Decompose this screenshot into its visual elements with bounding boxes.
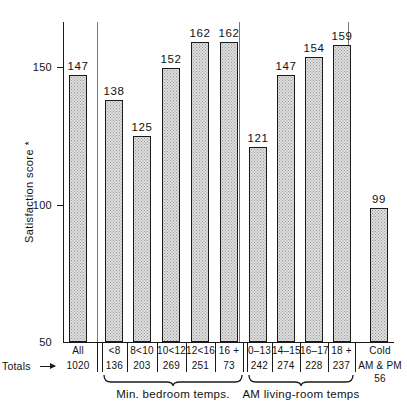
brace-living-room — [247, 374, 355, 386]
bar-value-liv-0-13: 121 — [240, 132, 276, 144]
xlabel-bed-lt8: <8 — [102, 345, 127, 356]
y-tick-label-50: 50 — [18, 336, 52, 348]
xlabel-cold-line2: AM & PM — [355, 360, 405, 371]
xtotal-cold: 56 — [355, 373, 405, 384]
xcell-separator-7 — [243, 343, 244, 372]
bar-value-bed-lt8: 138 — [96, 85, 132, 97]
xtotal-bed-lt8: 136 — [102, 360, 127, 371]
bar-liv-18p[interactable] — [333, 45, 351, 342]
section-separator-2 — [239, 22, 240, 342]
bar-value-bed-16p: 162 — [211, 27, 247, 39]
group-label-bedroom: Min. bedroom temps. — [102, 388, 244, 400]
xlabel-liv-18p: 18 + — [328, 345, 355, 356]
xtotal-liv-18p: 237 — [328, 360, 355, 371]
xtotal-bed-12-16: 251 — [186, 360, 215, 371]
xlabel-bed-12-16: 12<16 — [186, 345, 215, 356]
xtotal-liv-0-13: 242 — [247, 360, 272, 371]
bar-liv-0-13[interactable] — [249, 147, 267, 342]
xtotal-liv-14-15: 274 — [272, 360, 300, 371]
bar-liv-14-15[interactable] — [277, 75, 295, 342]
bar-liv-16-17[interactable] — [305, 57, 323, 342]
brace-bedroom — [102, 374, 244, 386]
xlabel-cold: Cold — [355, 345, 405, 356]
xlabel-liv-16-17: 16–17 — [300, 345, 328, 356]
y-axis-title: Satisfaction score * — [23, 87, 35, 297]
xtotal-bed-8-10: 203 — [127, 360, 157, 371]
xcell-separator-1 — [97, 343, 98, 372]
xlabel-liv-0-13: 0–13 — [247, 345, 272, 356]
totals-row-label: Totals — [2, 360, 31, 372]
xlabel-bed-16p: 16 + — [215, 345, 243, 356]
bar-value-liv-16-17: 154 — [296, 42, 332, 54]
xlabel-bed-10-12: 10<12 — [157, 345, 186, 356]
bar-value-all: 147 — [60, 60, 96, 72]
totals-arrow-icon — [40, 366, 55, 367]
bar-value-bed-8-10: 125 — [124, 121, 160, 133]
y-tick-100 — [57, 205, 64, 206]
xlabel-liv-14-15: 14–15 — [272, 345, 300, 356]
bar-chart-figure: Satisfaction score * 150 100 50 147 138 … — [0, 0, 407, 409]
xtotal-liv-16-17: 228 — [300, 360, 328, 371]
bar-cold[interactable] — [370, 208, 388, 342]
y-tick-label-150: 150 — [18, 61, 52, 73]
y-tick-label-100: 100 — [18, 199, 52, 211]
xlabel-bed-8-10: 8<10 — [127, 345, 157, 356]
xtotal-bed-16p: 73 — [215, 360, 243, 371]
bar-value-liv-18p: 159 — [324, 30, 360, 42]
section-separator-1 — [97, 22, 98, 342]
bar-all[interactable] — [69, 75, 87, 342]
bar-bed-8-10[interactable] — [133, 136, 151, 342]
x-axis-baseline — [63, 342, 394, 343]
xtotal-bed-10-12: 269 — [157, 360, 186, 371]
bar-bed-10-12[interactable] — [162, 68, 180, 342]
bar-value-liv-14-15: 147 — [268, 60, 304, 72]
bar-value-cold: 99 — [361, 193, 397, 205]
xlabel-all: All — [60, 345, 96, 356]
group-label-living-room: AM living-room temps — [240, 388, 362, 400]
bar-bed-16p[interactable] — [220, 42, 238, 342]
bar-value-bed-10-12: 152 — [153, 53, 189, 65]
xtotal-all: 1020 — [60, 360, 96, 371]
bar-bed-12-16[interactable] — [191, 42, 209, 342]
bar-bed-lt8[interactable] — [105, 100, 123, 342]
